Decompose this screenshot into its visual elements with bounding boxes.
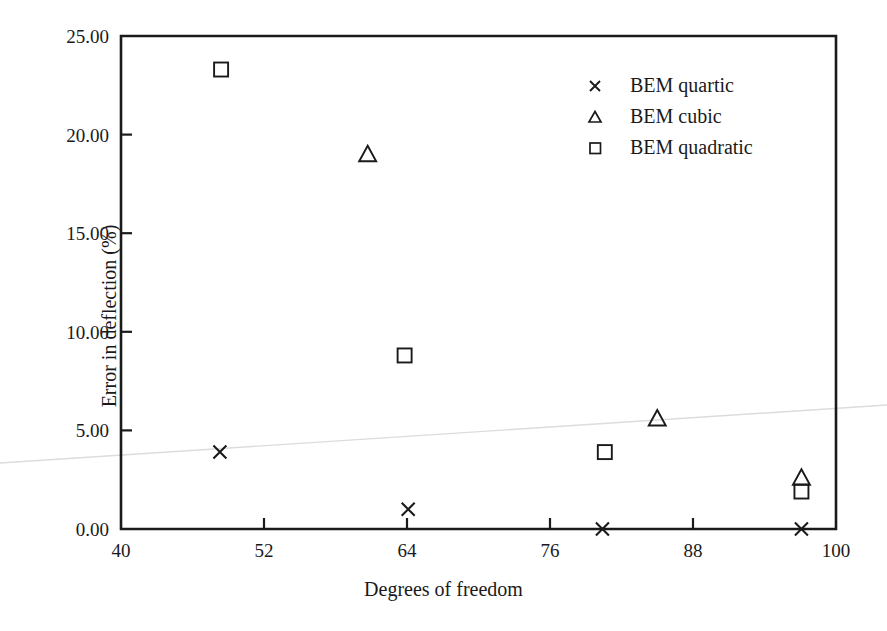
x-tick-label: 52	[255, 541, 274, 560]
chart-legend: BEM quartic BEM cubic BEM quadratic	[578, 70, 753, 163]
data-point-triangle	[793, 469, 810, 484]
y-tick-label: 25.00	[0, 27, 109, 46]
y-tick-label: 0.00	[0, 520, 109, 539]
x-tick-label: 88	[684, 541, 703, 560]
plot-canvas	[0, 0, 887, 631]
x-axis-title: Degrees of freedom	[0, 578, 887, 601]
x-tick-label: 64	[398, 541, 417, 560]
x-tick-label: 100	[822, 541, 851, 560]
data-point-triangle	[359, 146, 376, 161]
axis-tick-marks	[121, 135, 693, 529]
y-tick-label: 20.00	[0, 125, 109, 144]
chart-figure: 0.005.0010.0015.0020.0025.00405264768810…	[0, 0, 887, 631]
legend-item-label: BEM quadratic	[630, 136, 753, 159]
data-point-square	[794, 485, 808, 499]
legend-item-label: BEM cubic	[630, 105, 722, 128]
data-point-square	[598, 445, 612, 459]
y-tick-label: 10.00	[0, 322, 109, 341]
x-tick-label: 76	[541, 541, 560, 560]
data-point-cross	[402, 503, 415, 516]
y-axis-title: Error in deflection (%)	[98, 224, 121, 407]
scan-artifact-line	[0, 405, 887, 463]
data-point-square	[214, 63, 228, 77]
triangle-marker	[578, 108, 612, 126]
y-tick-label: 5.00	[0, 421, 109, 440]
data-point-cross	[213, 446, 226, 459]
cross-marker	[578, 77, 612, 95]
legend-item-label: BEM quartic	[630, 74, 734, 97]
x-tick-label: 40	[112, 541, 131, 560]
legend-item: BEM cubic	[578, 101, 753, 132]
data-point-square	[398, 348, 412, 362]
legend-item: BEM quadratic	[578, 132, 753, 163]
data-point-triangle	[649, 410, 666, 425]
y-tick-label: 15.00	[0, 224, 109, 243]
square-marker	[578, 139, 612, 157]
legend-item: BEM quartic	[578, 70, 753, 101]
